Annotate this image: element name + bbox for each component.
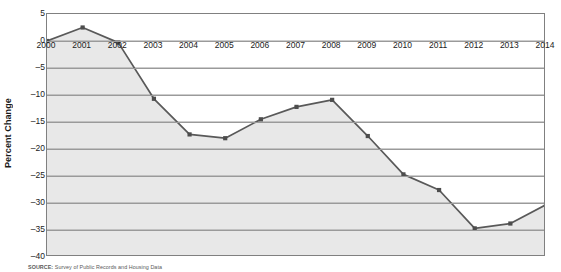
source-text: Survey of Public Records and Housing Dat… bbox=[55, 264, 162, 270]
y-tick-label: –25 bbox=[31, 171, 45, 179]
data-point-marker bbox=[508, 221, 512, 225]
gridline bbox=[47, 149, 544, 150]
data-point-marker bbox=[437, 188, 441, 192]
y-tick-label: –35 bbox=[31, 225, 45, 233]
gridline bbox=[47, 41, 544, 42]
area-fill bbox=[47, 28, 545, 257]
y-axis-title: Percent Change bbox=[1, 88, 15, 178]
y-axis-tick-labels: 50–5–10–15–20–25–30–35–40 bbox=[14, 0, 45, 272]
data-point-marker bbox=[330, 98, 334, 102]
data-point-marker bbox=[152, 97, 156, 101]
source-prefix: SOURCE: bbox=[28, 264, 53, 270]
data-point-marker bbox=[366, 134, 370, 138]
gridline bbox=[47, 68, 544, 69]
y-tick-label: 0 bbox=[40, 36, 45, 44]
y-tick-label: –40 bbox=[31, 252, 45, 260]
y-tick-label: –20 bbox=[31, 144, 45, 152]
plot-area bbox=[46, 13, 545, 256]
gridline bbox=[47, 95, 544, 96]
gridline bbox=[47, 203, 544, 204]
data-point-marker bbox=[223, 136, 227, 140]
source-note: SOURCE: Survey of Public Records and Hou… bbox=[28, 264, 162, 270]
data-point-marker bbox=[81, 25, 85, 29]
chart-figure: Percent Change 50–5–10–15–20–25–30–35–40… bbox=[0, 0, 561, 272]
y-tick-label: –30 bbox=[31, 198, 45, 206]
y-tick-label: 5 bbox=[40, 9, 45, 17]
data-point-marker bbox=[544, 203, 545, 207]
gridline bbox=[47, 122, 544, 123]
data-point-marker bbox=[294, 105, 298, 109]
y-tick-label: –10 bbox=[31, 90, 45, 98]
y-tick-label: –15 bbox=[31, 117, 45, 125]
area-line-series bbox=[47, 14, 545, 256]
y-tick-label: –5 bbox=[36, 63, 45, 71]
data-point-marker bbox=[187, 132, 191, 136]
gridline bbox=[47, 176, 544, 177]
gridline bbox=[47, 230, 544, 231]
